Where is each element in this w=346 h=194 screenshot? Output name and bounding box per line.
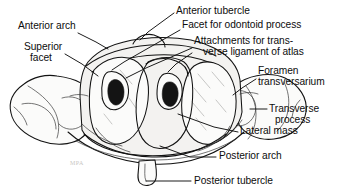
label-superior-facet-line2: facet <box>30 52 52 63</box>
left-transverse-process <box>10 75 92 144</box>
label-superior-facet-line1: Superior <box>24 41 62 52</box>
posterior-tubercle <box>138 160 157 185</box>
artist-watermark: MPA <box>70 160 84 166</box>
label-foramen-transversarium-line1: Foramen <box>258 65 298 76</box>
leader-anterior-arch <box>78 33 108 49</box>
label-attachments-transverse-ligament-line2: verse ligament of atlas <box>203 46 304 57</box>
label-anterior-arch: Anterior arch <box>18 20 76 31</box>
label-facet-for-odontoid-process: Facet for odontoid process <box>182 19 301 30</box>
label-foramen-transversarium-line2: transversarium <box>258 76 325 87</box>
label-transverse-process-line1: Transverse <box>269 103 319 114</box>
label-transverse-process-line2: process <box>275 114 310 125</box>
atlas-vertebra-figure: Anterior tubercle Facet for odontoid pro… <box>0 0 346 194</box>
attachment-tubercle-right-pit <box>162 82 178 107</box>
attachment-tubercle-left-pit <box>108 80 124 105</box>
label-anterior-tubercle: Anterior tubercle <box>176 5 250 16</box>
right-lateral-mass-superior-facet <box>182 62 237 144</box>
label-posterior-tubercle: Posterior tubercle <box>194 175 273 186</box>
label-lateral-mass: Lateral mass <box>240 125 298 136</box>
label-attachments-transverse-ligament-line1: Attachments for trans- <box>194 35 293 46</box>
label-posterior-arch: Posterior arch <box>219 150 282 161</box>
